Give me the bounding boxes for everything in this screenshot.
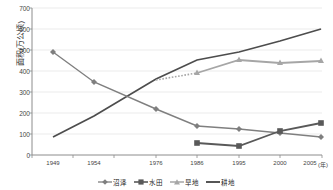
legend-marker-triangle-icon <box>170 178 184 186</box>
x-axis-unit: (年) <box>318 160 328 169</box>
legend-label-dryland: 旱地 <box>185 177 199 187</box>
x-tick-2005: 2005 <box>303 160 316 166</box>
gridlines <box>32 8 322 134</box>
legend-item-paddy[interactable]: 水田 <box>134 177 163 187</box>
chart-container: 面积(万公顷) 700 600 500 400 300 200 100 0 <box>0 0 333 190</box>
legend-marker-square-icon <box>134 178 148 186</box>
x-tick-1949: 1949 <box>46 160 59 166</box>
legend-marker-diamond-icon <box>98 178 112 186</box>
series-paddy <box>194 120 324 149</box>
dryland-markers <box>194 57 324 76</box>
legend-label-paddy: 水田 <box>149 177 163 187</box>
x-tick-1954: 1954 <box>87 160 100 166</box>
x-tick-1995: 1995 <box>232 160 245 166</box>
x-tick-1976: 1976 <box>149 160 162 166</box>
x-tick-1986: 1986 <box>190 160 203 166</box>
legend-item-marsh[interactable]: 沼泽 <box>98 177 127 187</box>
legend-item-cropland[interactable]: 耕地 <box>206 177 235 187</box>
legend-label-cropland: 耕地 <box>221 177 235 187</box>
x-axis-ticks: 1949 1954 1976 1986 1995 2000 2005 (年) <box>0 160 333 172</box>
legend-label-marsh: 沼泽 <box>113 177 127 187</box>
x-tick-2000: 2000 <box>273 160 286 166</box>
legend-item-dryland[interactable]: 旱地 <box>170 177 199 187</box>
chart-legend: 沼泽 水田 旱地 耕地 <box>0 175 333 189</box>
legend-marker-line-icon <box>206 178 220 186</box>
